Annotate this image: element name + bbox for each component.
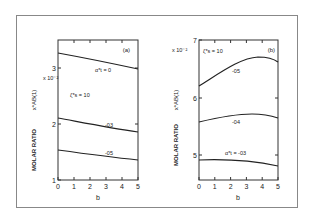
panel-b: 0 1 2 3 4 5 5 6 7 b x 10⁻² MOLAR RATIO x… (172, 37, 280, 201)
x-tick-labels-a: 0 1 2 3 4 5 (56, 183, 140, 190)
panel-label-a: (a) (123, 47, 130, 53)
curve-label-b-2: α*t = -03 (225, 150, 246, 156)
svg-text:0: 0 (197, 183, 201, 190)
figure-svg: 0 1 2 3 4 5 1 2 3 b x 10⁻² MOLAR RATIO x… (0, 0, 314, 216)
svg-text:7: 7 (193, 37, 197, 44)
svg-text:5: 5 (276, 183, 280, 190)
svg-text:2: 2 (52, 121, 56, 128)
svg-text:3: 3 (52, 65, 56, 72)
svg-text:4: 4 (260, 183, 264, 190)
svg-text:3: 3 (104, 183, 108, 190)
plot-area-b (199, 40, 278, 180)
panel-label-b: (b) (268, 47, 275, 53)
x-axis-label-b: b (236, 194, 240, 201)
y-axis-symbol-a: x*AB(1) (31, 90, 37, 111)
x-ticks-b (199, 40, 278, 180)
svg-text:6: 6 (193, 95, 197, 102)
y-ticks-a (58, 68, 138, 180)
zeta-annotation-a: ζ*s = 10 (70, 92, 90, 99)
svg-text:1: 1 (72, 183, 76, 190)
curve-a-03 (58, 118, 138, 132)
curve-label-b-0: -05 (232, 68, 240, 74)
curve-b-03 (199, 160, 278, 166)
svg-text:1: 1 (213, 183, 217, 190)
svg-text:1: 1 (52, 177, 56, 184)
svg-text:3: 3 (244, 183, 248, 190)
zeta-annotation-b: ζ*s = 10 (203, 48, 223, 55)
curve-label-a-0: α*t = 0 (95, 67, 111, 73)
y-axis-label-b: MOLAR RATIO (173, 124, 179, 166)
y-axis-symbol-b: x*AB(1) (173, 90, 179, 111)
curve-label-a-2: -05 (105, 150, 113, 156)
svg-text:0: 0 (56, 183, 60, 190)
svg-text:2: 2 (229, 183, 233, 190)
curve-label-b-1: -04 (232, 119, 240, 125)
scale-note-a: x 10⁻² (43, 75, 58, 81)
curve-label-a-1: -03 (105, 122, 113, 128)
curve-a-05 (58, 150, 138, 160)
svg-text:5: 5 (136, 183, 140, 190)
y-tick-labels-b: 5 6 7 (193, 37, 197, 159)
x-axis-label-a: b (96, 194, 100, 201)
svg-text:2: 2 (88, 183, 92, 190)
scale-note-b: x 10⁻² (172, 47, 187, 53)
x-tick-labels-b: 0 1 2 3 4 5 (197, 183, 280, 190)
svg-text:5: 5 (193, 152, 197, 159)
panel-a: 0 1 2 3 4 5 1 2 3 b x 10⁻² MOLAR RATIO x… (31, 40, 140, 201)
y-tick-labels-a: 1 2 3 (52, 65, 56, 184)
svg-text:4: 4 (120, 183, 124, 190)
y-axis-label-a: MOLAR RATIO (31, 129, 37, 171)
